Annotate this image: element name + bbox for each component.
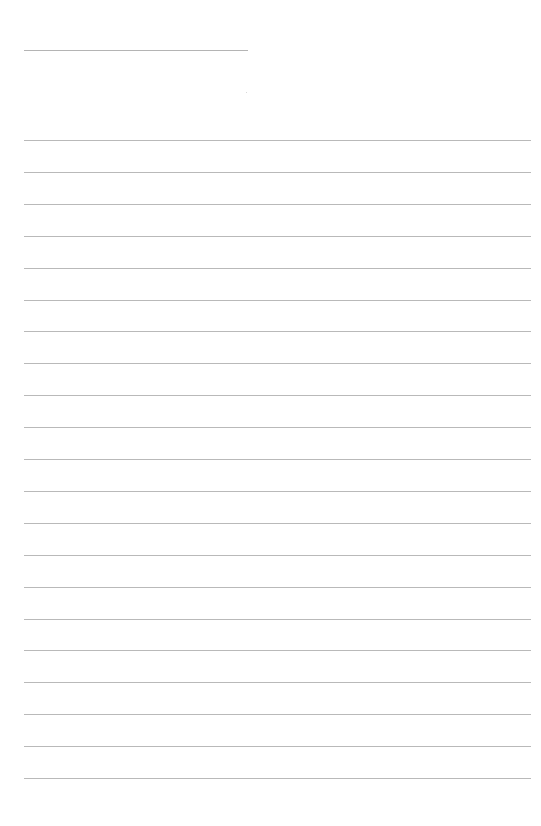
ruled-line xyxy=(24,363,531,364)
ruled-line xyxy=(24,491,531,492)
ruled-line xyxy=(24,427,531,428)
ruled-line xyxy=(24,459,531,460)
ruled-line xyxy=(24,746,531,747)
ruled-line xyxy=(24,395,531,396)
ruled-line xyxy=(24,682,531,683)
ruled-line xyxy=(24,236,531,237)
ruled-line xyxy=(24,268,531,269)
ruled-line xyxy=(24,523,531,524)
ruled-lines-area xyxy=(24,0,531,826)
ruled-line xyxy=(24,204,531,205)
notepad-page xyxy=(0,0,541,826)
ruled-line xyxy=(24,619,531,620)
ruled-line xyxy=(24,778,531,779)
ruled-line xyxy=(24,587,531,588)
ruled-line xyxy=(24,555,531,556)
ruled-line xyxy=(24,331,531,332)
ruled-line xyxy=(24,140,531,141)
ruled-line xyxy=(24,714,531,715)
ruled-line xyxy=(24,650,531,651)
ruled-line xyxy=(24,172,531,173)
ruled-line xyxy=(24,300,531,301)
